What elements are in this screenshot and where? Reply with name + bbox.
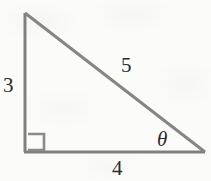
- angle-label-theta: θ: [157, 129, 167, 150]
- right-angle-marker-icon: [28, 134, 44, 150]
- side-length-label-4: 4: [112, 158, 123, 179]
- side-length-label-3: 3: [3, 75, 14, 96]
- side-length-label-5: 5: [121, 55, 132, 76]
- right-triangle-figure: 3 5 4 θ: [0, 0, 211, 181]
- triangle-side-hypotenuse: [25, 13, 205, 152]
- triangle-drawing: [0, 0, 211, 181]
